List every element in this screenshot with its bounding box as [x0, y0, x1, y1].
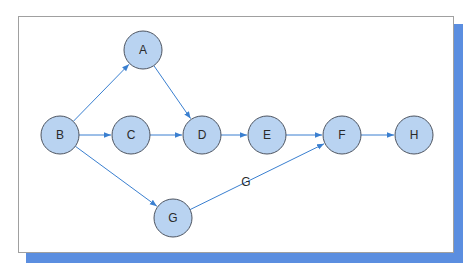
node-g[interactable]: G [154, 199, 192, 237]
node-e[interactable]: E [248, 116, 286, 154]
node-d[interactable]: D [183, 116, 221, 154]
node-a[interactable]: A [124, 31, 162, 69]
node-f[interactable]: F [323, 116, 361, 154]
node-label: C [127, 128, 136, 142]
node-label: H [410, 128, 419, 142]
node-h[interactable]: H [395, 116, 433, 154]
edge-label-g: G [241, 175, 250, 189]
network-diagram: ABCDEFHG G [0, 0, 475, 270]
node-b[interactable]: B [41, 116, 79, 154]
nodes-layer: ABCDEFHG [41, 31, 433, 237]
edge-b-a [73, 64, 129, 121]
node-label: D [198, 128, 207, 142]
edge-b-g [75, 146, 157, 206]
node-label: A [139, 43, 147, 57]
edge-a-d [154, 66, 191, 119]
node-label: E [263, 128, 271, 142]
node-c[interactable]: C [112, 116, 150, 154]
edge-g-f [190, 144, 324, 210]
node-label: F [338, 128, 345, 142]
node-label: G [168, 211, 177, 225]
node-label: B [56, 128, 64, 142]
